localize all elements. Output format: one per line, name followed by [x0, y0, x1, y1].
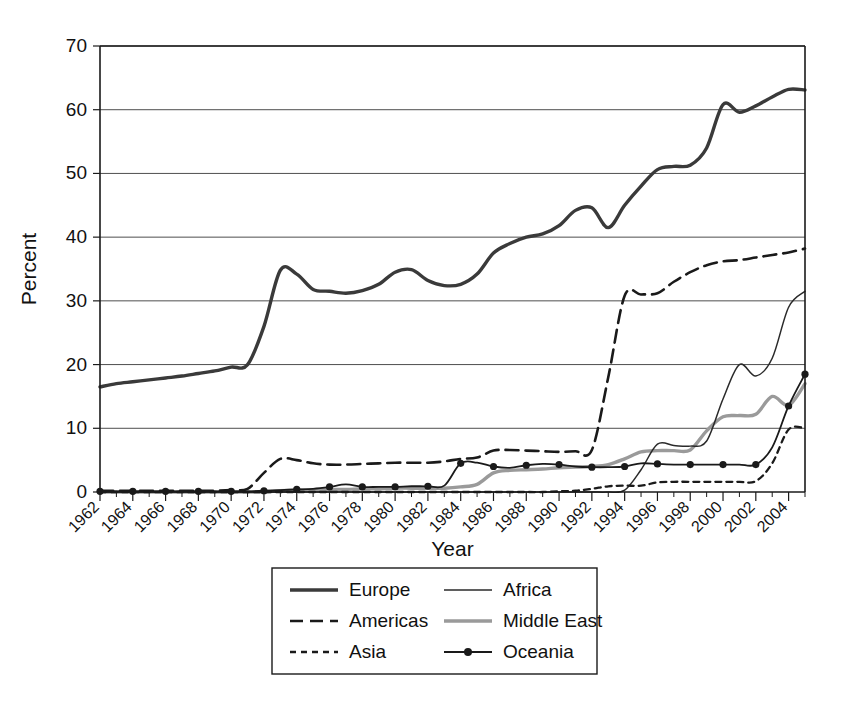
legend-label: Oceania: [503, 641, 574, 662]
data-point-marker: [326, 483, 333, 490]
legend-marker-swatch: [464, 648, 472, 656]
y-axis-tick-label: 70: [66, 35, 87, 56]
chart-legend: EuropeAmericasAsiaAfricaMiddle EastOcean…: [272, 568, 603, 674]
data-point-marker: [555, 461, 562, 468]
y-axis-tick-label: 40: [66, 226, 87, 247]
data-point-marker: [523, 462, 530, 469]
data-point-marker: [490, 463, 497, 470]
legend-label: Asia: [349, 641, 386, 662]
legend-label: Americas: [349, 610, 428, 631]
data-point-marker: [687, 461, 694, 468]
y-axis-tick-label: 0: [76, 481, 87, 502]
y-axis-tick-label: 30: [66, 290, 87, 311]
data-point-marker: [359, 483, 366, 490]
data-point-marker: [752, 461, 759, 468]
data-point-marker: [392, 483, 399, 490]
line-chart: 010203040506070 196219641966196819701972…: [0, 0, 844, 704]
data-point-marker: [457, 460, 464, 467]
data-point-marker: [621, 463, 628, 470]
legend-label: Middle East: [503, 610, 603, 631]
data-point-marker: [588, 464, 595, 471]
y-axis-tick-label: 50: [66, 162, 87, 183]
data-point-marker: [654, 460, 661, 467]
data-point-marker: [719, 461, 726, 468]
y-axis-tick-label: 20: [66, 354, 87, 375]
y-axis-tick-label: 60: [66, 99, 87, 120]
y-axis-title: Percent: [17, 233, 40, 306]
y-axis-tick-label: 10: [66, 417, 87, 438]
chart-container: 010203040506070 196219641966196819701972…: [0, 0, 844, 704]
data-point-marker: [424, 483, 431, 490]
data-point-marker: [785, 402, 792, 409]
legend-label: Africa: [503, 579, 552, 600]
legend-label: Europe: [349, 579, 410, 600]
x-axis-title: Year: [431, 537, 473, 560]
